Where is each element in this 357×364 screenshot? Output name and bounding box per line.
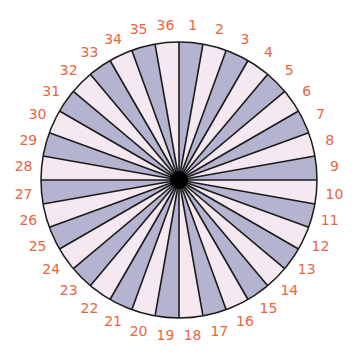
sector-label: 31 — [42, 83, 60, 99]
sector-label: 20 — [130, 323, 148, 339]
sector-label: 6 — [302, 83, 311, 99]
center-hub — [170, 171, 188, 189]
sector-label: 12 — [311, 238, 329, 254]
sector-label: 28 — [15, 158, 33, 174]
sector-label: 26 — [19, 212, 37, 228]
sector-label: 35 — [130, 21, 148, 37]
sector-label: 36 — [156, 17, 174, 33]
sector-label: 15 — [260, 300, 278, 316]
sector-label: 23 — [60, 282, 78, 298]
sector-label: 16 — [236, 313, 254, 329]
sector-label: 27 — [15, 186, 33, 202]
sector-label: 13 — [298, 261, 316, 277]
sector-label: 1 — [188, 17, 197, 33]
sector-label: 24 — [42, 261, 60, 277]
sector-wheel: 1234567891011121314151617181920212223242… — [0, 0, 357, 364]
sector-label: 2 — [215, 21, 224, 37]
sector-label: 11 — [321, 212, 339, 228]
sector-label: 25 — [29, 238, 47, 254]
sector-label: 21 — [104, 313, 122, 329]
sector-label: 29 — [19, 132, 37, 148]
sector-label: 22 — [81, 300, 99, 316]
sector-label: 17 — [210, 323, 228, 339]
sector-label: 5 — [285, 62, 294, 78]
sector-label: 10 — [325, 186, 343, 202]
sector-label: 34 — [104, 31, 122, 47]
sector-label: 33 — [81, 44, 99, 60]
sector-label: 30 — [29, 106, 47, 122]
sector-label: 3 — [240, 31, 249, 47]
sector-label: 18 — [184, 327, 202, 343]
sector-label: 7 — [316, 106, 325, 122]
sector-label: 8 — [325, 132, 334, 148]
sector-label: 19 — [156, 327, 174, 343]
sector-label: 32 — [60, 62, 78, 78]
sector-label: 9 — [330, 158, 339, 174]
sector-label: 4 — [264, 44, 273, 60]
sector-label: 14 — [280, 282, 298, 298]
